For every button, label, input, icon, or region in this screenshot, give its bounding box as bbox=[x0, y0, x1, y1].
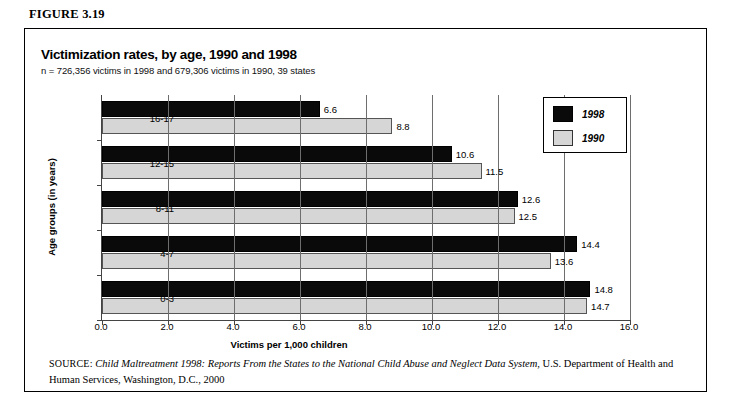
x-tick-label: 14.0 bbox=[554, 321, 573, 332]
bar-value-label: 14.8 bbox=[594, 283, 613, 294]
y-tick-label: 16-17 bbox=[150, 112, 174, 123]
bar-value-label: 12.5 bbox=[519, 210, 538, 221]
bar-value-label: 14.4 bbox=[581, 238, 600, 249]
gridline bbox=[234, 95, 235, 320]
x-tick-label: 4.0 bbox=[226, 321, 239, 332]
y-tick-label: 8-11 bbox=[156, 202, 174, 213]
source-label: SOURCE: bbox=[49, 358, 93, 369]
gridline bbox=[300, 95, 301, 320]
figure-frame: Victimization rates, by age, 1990 and 19… bbox=[24, 28, 707, 392]
x-tick-label: 8.0 bbox=[358, 321, 371, 332]
y-tick-mark bbox=[97, 185, 102, 186]
legend-swatch-1998 bbox=[553, 106, 573, 122]
y-axis-title: Age groups (in years) bbox=[46, 158, 57, 256]
y-tick-mark bbox=[97, 230, 102, 231]
y-tick-mark bbox=[97, 275, 102, 276]
chart-subtitle: n = 726,356 victims in 1998 and 679,306 … bbox=[41, 65, 315, 76]
gridline bbox=[498, 95, 499, 320]
bar-value-label: 12.6 bbox=[522, 193, 541, 204]
bar-value-label: 8.8 bbox=[396, 120, 409, 131]
source-title: Child Maltreatment 1998: Reports From th… bbox=[95, 358, 537, 369]
legend-item-1990: 1990 bbox=[553, 130, 604, 146]
x-tick-label: 16.0 bbox=[620, 321, 639, 332]
y-tick-mark bbox=[97, 140, 102, 141]
bar-value-label: 11.5 bbox=[486, 165, 504, 176]
bar-value-label: 14.7 bbox=[591, 300, 610, 311]
x-tick-label: 6.0 bbox=[292, 321, 305, 332]
legend-label-1990: 1990 bbox=[582, 133, 604, 144]
chart-title: Victimization rates, by age, 1990 and 19… bbox=[41, 47, 297, 62]
bar-value-label: 13.6 bbox=[555, 255, 574, 266]
x-tick-label: 12.0 bbox=[488, 321, 507, 332]
chart-legend: 1998 1990 bbox=[543, 97, 627, 153]
y-tick-label: 0-3 bbox=[160, 292, 174, 303]
x-axis-title: Victims per 1,000 children bbox=[230, 339, 347, 350]
source-note: SOURCE: Child Maltreatment 1998: Reports… bbox=[49, 356, 694, 387]
y-tick-label: 4-7 bbox=[160, 247, 174, 258]
plot-wrapper: Age groups (in years) Victims per 1,000 … bbox=[25, 89, 708, 351]
bar-value-label: 6.6 bbox=[324, 103, 337, 114]
x-tick-label: 10.0 bbox=[422, 321, 441, 332]
gridline bbox=[630, 95, 631, 320]
legend-swatch-1990 bbox=[553, 130, 573, 146]
y-tick-label: 12-15 bbox=[150, 157, 174, 168]
bar-value-label: 10.6 bbox=[456, 148, 475, 159]
bar-1998-0-3 bbox=[102, 281, 590, 297]
x-tick-label: 0.0 bbox=[94, 321, 107, 332]
figure-label: FIGURE 3.19 bbox=[29, 7, 105, 22]
gridline bbox=[366, 95, 367, 320]
bar-1998-16-17 bbox=[102, 101, 320, 117]
bar-1990-0-3 bbox=[102, 298, 587, 314]
x-tick-label: 2.0 bbox=[160, 321, 173, 332]
legend-label-1998: 1998 bbox=[582, 109, 604, 120]
legend-item-1998: 1998 bbox=[553, 106, 604, 122]
gridline bbox=[432, 95, 433, 320]
bar-1990-16-17 bbox=[102, 118, 392, 134]
